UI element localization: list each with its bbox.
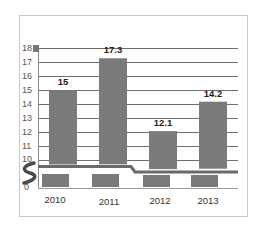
xlabel-2010: 2010 xyxy=(35,194,75,205)
xlabel-2013: 2013 xyxy=(188,195,228,206)
axis-break-squiggle-icon xyxy=(24,163,35,183)
bar-2012 xyxy=(149,131,177,169)
bars xyxy=(49,58,227,169)
xlabel-2012: 2012 xyxy=(140,195,180,206)
ytick-17: 17 xyxy=(22,57,38,67)
ytick-15: 15 xyxy=(22,85,38,95)
value-label-2012: 12.1 xyxy=(143,117,183,128)
xlabel-2011: 2011 xyxy=(89,196,129,207)
ytick-13: 13 xyxy=(22,113,38,123)
value-label-2011: 17.3 xyxy=(93,44,133,55)
value-label-2013: 14.2 xyxy=(193,88,233,99)
ytick-14: 14 xyxy=(22,99,38,109)
value-label-2010: 15 xyxy=(43,76,83,87)
bar-2010 xyxy=(49,91,77,165)
ytick-16: 16 xyxy=(22,71,38,81)
ytick-0: 0 xyxy=(24,182,40,192)
bar-2013 xyxy=(199,102,227,169)
ytick-11: 11 xyxy=(22,141,38,151)
ytick-12: 12 xyxy=(22,127,38,137)
ytick-18: 18 xyxy=(22,43,38,53)
bar-2011 xyxy=(99,58,127,164)
bar-stubs xyxy=(42,174,218,187)
ytick-10: 10 xyxy=(22,154,38,164)
